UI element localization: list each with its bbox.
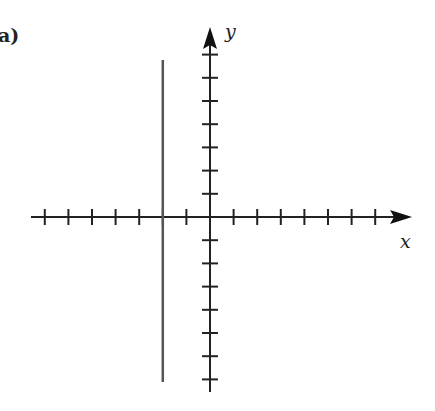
y-axis-label: y	[224, 20, 236, 42]
x-axis-label: x	[400, 230, 411, 252]
axes	[31, 27, 412, 392]
coordinate-plane: x y	[0, 0, 435, 411]
